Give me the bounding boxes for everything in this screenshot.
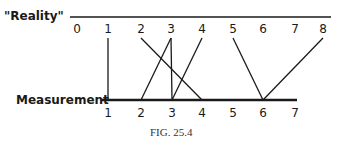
measurement-label-4: 4 (198, 106, 206, 120)
measurement-mapping-diagram: "Reality" 012345678 Measurement 1234567 … (0, 0, 344, 143)
measurement-axis-title: Measurement (16, 93, 109, 107)
measurement-label-5: 5 (229, 106, 237, 120)
reality-label-5: 5 (229, 22, 237, 36)
measurement-label-3: 3 (168, 106, 176, 120)
figure-caption: FIG. 25.4 (150, 126, 193, 138)
reality-label-6: 6 (259, 22, 267, 36)
measurement-label-6: 6 (259, 106, 267, 120)
mapping-line-r3-m2 (141, 38, 171, 100)
reality-axis-title: "Reality" (4, 9, 64, 23)
reality-label-4: 4 (198, 22, 206, 36)
mapping-line-r8-m6 (263, 38, 323, 100)
measurement-axis-labels: 1234567 (104, 106, 299, 120)
reality-label-7: 7 (291, 22, 299, 36)
reality-label-0: 0 (73, 22, 81, 36)
measurement-label-7: 7 (291, 106, 299, 120)
mapping-line-r5-m6 (233, 38, 263, 100)
reality-label-1: 1 (104, 22, 112, 36)
reality-label-8: 8 (319, 22, 327, 36)
measurement-label-2: 2 (137, 106, 145, 120)
measurement-label-1: 1 (104, 106, 112, 120)
reality-label-3: 3 (167, 22, 175, 36)
reality-label-2: 2 (137, 22, 145, 36)
mapping-line-r3-m3 (171, 38, 172, 100)
mapping-line-r4-m3 (172, 38, 202, 100)
mapping-lines (108, 38, 323, 100)
reality-axis-labels: 012345678 (73, 22, 327, 36)
